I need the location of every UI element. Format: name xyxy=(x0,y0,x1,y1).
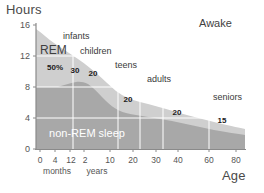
x-tick-4-months: 4 xyxy=(53,155,58,165)
rem-percent-15-senior: 15 xyxy=(218,116,227,125)
x-tick-30-years: 30 xyxy=(151,155,160,165)
annotation-awake: Awake xyxy=(199,17,232,29)
rem-percent-20-toddler: 20 xyxy=(89,69,98,78)
rem-percent-30: 30 xyxy=(71,66,80,75)
annotation-rem: REM xyxy=(40,43,67,57)
sleep-across-lifespan-chart: Hours Age 16 12 8 4 0 0 4 12 2 10 20 30 … xyxy=(0,0,264,193)
annotation-seniors: seniors xyxy=(213,92,242,102)
x-tick-12-months: 12 xyxy=(66,155,75,165)
y-tick-16: 16 xyxy=(14,20,30,30)
y-axis-title: Hours xyxy=(6,2,42,17)
annotation-adults: adults xyxy=(147,74,171,84)
rem-percent-50: 50% xyxy=(47,63,63,72)
x-unit-years: years xyxy=(87,166,108,176)
x-tick-40-years: 40 xyxy=(173,155,182,165)
annotation-children: children xyxy=(80,46,112,56)
rem-percent-20-teen: 20 xyxy=(124,95,133,104)
y-tick-4: 4 xyxy=(14,113,30,123)
x-axis-title: Age xyxy=(222,168,246,183)
rem-percent-20-adult: 20 xyxy=(173,108,182,117)
annotation-teens: teens xyxy=(115,60,137,70)
y-tick-0: 0 xyxy=(14,144,30,154)
annotation-infants: infants xyxy=(63,31,90,41)
x-tick-20-years: 20 xyxy=(128,155,137,165)
x-tick-0-months: 0 xyxy=(38,155,43,165)
y-tick-12: 12 xyxy=(14,51,30,61)
x-unit-months: months xyxy=(43,166,71,176)
x-tick-60-years: 60 xyxy=(204,155,213,165)
x-tick-2-years: 2 xyxy=(83,155,88,165)
annotation-non-rem-sleep: non-REM sleep xyxy=(49,127,125,139)
y-tick-8: 8 xyxy=(14,82,30,92)
x-tick-10-years: 10 xyxy=(105,155,114,165)
x-tick-80-years: 80 xyxy=(231,155,240,165)
